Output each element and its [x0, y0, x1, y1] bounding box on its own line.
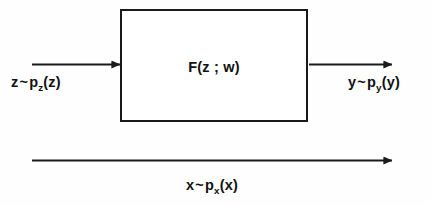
data-variable: x — [186, 177, 194, 193]
data-density-argument: (x) — [220, 177, 238, 193]
output-density-argument: (y) — [382, 74, 400, 90]
transform-block-label: F(z ; w) — [120, 59, 308, 75]
data-distribution-label: x~px(x) — [0, 177, 424, 193]
output-density-symbol: p — [367, 74, 376, 90]
output-tilde: ~ — [356, 74, 367, 90]
output-distribution-label: y~py(y) — [348, 74, 400, 90]
input-tilde: ~ — [18, 74, 29, 90]
input-distribution-label: z~pz(z) — [11, 74, 61, 90]
transform-argument: z — [202, 59, 209, 75]
transform-separator: ; — [210, 59, 224, 75]
data-density-symbol: p — [205, 177, 214, 193]
transform-close-paren: ) — [235, 59, 240, 75]
input-density-symbol: p — [29, 74, 38, 90]
transform-function-name: F — [188, 59, 197, 75]
transform-parameter: w — [223, 59, 234, 75]
diagram-canvas: F(z ; w) z~pz(z) y~py(y) x~px(x) — [0, 0, 431, 206]
data-tilde: ~ — [194, 177, 205, 193]
input-density-argument: (z) — [43, 74, 61, 90]
